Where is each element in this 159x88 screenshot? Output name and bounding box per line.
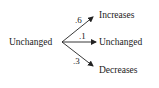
probability-label-increases: .6 xyxy=(75,16,82,25)
probability-label-unchanged: .1 xyxy=(79,32,86,41)
probability-tree-diagram: Unchanged .6 .1 .3 Increases Unchanged D… xyxy=(0,0,159,88)
target-node-unchanged: Unchanged xyxy=(99,37,142,47)
probability-label-decreases: .3 xyxy=(73,57,80,66)
source-node-label: Unchanged xyxy=(9,37,52,47)
target-node-decreases: Decreases xyxy=(99,65,138,75)
target-node-increases: Increases xyxy=(99,10,134,20)
